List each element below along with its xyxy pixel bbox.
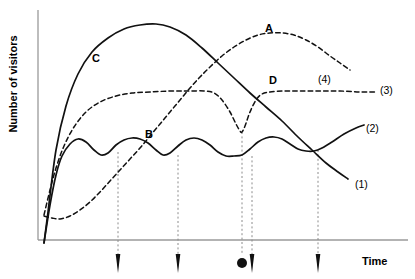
curve-point-label-B: B	[145, 128, 153, 140]
series-label-3: (3)	[380, 84, 393, 96]
series-label-2: (2)	[366, 122, 379, 134]
chart-plot-area	[0, 0, 415, 279]
chart-figure: Number of visitors Time ABCD (1)(2)(3)(4…	[0, 0, 415, 279]
time-marker-triangle-icon[interactable]	[116, 254, 121, 273]
series-curve-2	[44, 125, 364, 243]
time-marker-triangle-icon[interactable]	[250, 254, 255, 273]
axis-marker-group	[116, 254, 321, 273]
time-marker-circle-icon[interactable]	[237, 258, 247, 268]
series-label-1: (1)	[355, 178, 368, 190]
x-axis-label: Time	[362, 255, 387, 267]
curve-point-label-C: C	[92, 52, 100, 64]
y-axis-label: Number of visitors	[7, 9, 19, 159]
series-label-4: (4)	[318, 73, 331, 85]
curve-point-label-D: D	[269, 74, 277, 86]
series-curve-4	[44, 33, 350, 219]
time-marker-triangle-icon[interactable]	[176, 254, 181, 273]
time-marker-triangle-icon[interactable]	[316, 254, 321, 273]
marker-droplines	[118, 132, 318, 254]
axes	[38, 10, 408, 240]
series-curve-3	[44, 91, 375, 215]
series-curve-1	[44, 24, 348, 243]
curve-point-label-A: A	[265, 22, 273, 34]
